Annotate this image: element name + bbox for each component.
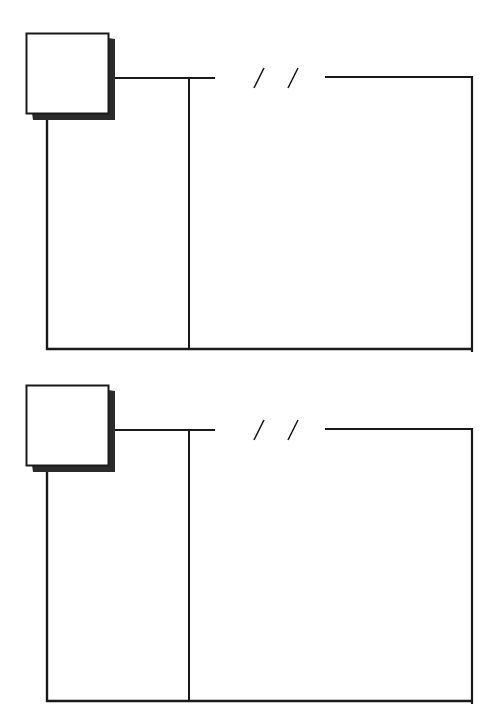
break-slash-2: [288, 420, 298, 440]
corner-box: [27, 34, 109, 114]
break-slash-2: [288, 68, 298, 88]
frame-1: [0, 30, 493, 370]
corner-box: [27, 386, 109, 466]
break-slash-1: [254, 420, 264, 440]
break-slash-1: [254, 68, 264, 88]
frame-2: [0, 382, 493, 708]
